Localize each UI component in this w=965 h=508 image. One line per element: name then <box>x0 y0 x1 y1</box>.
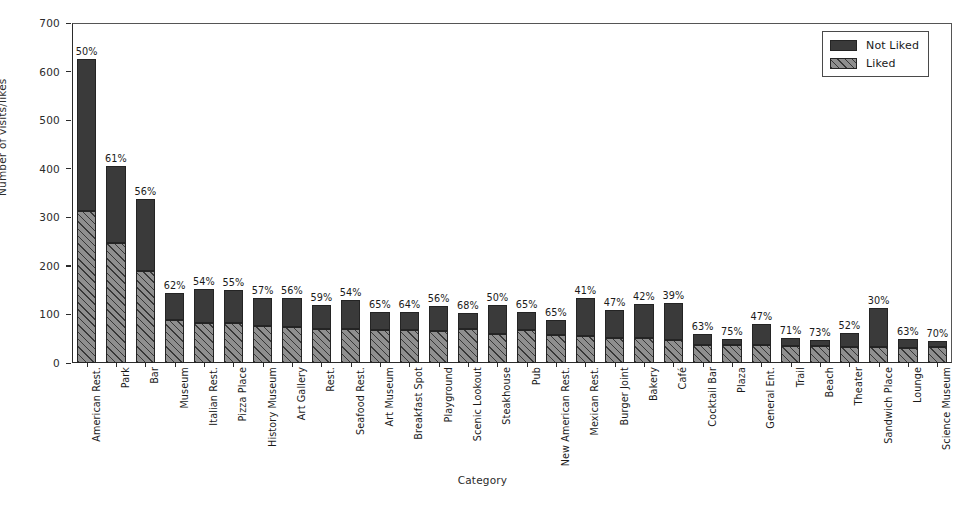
bar-group[interactable]: 57% <box>253 298 272 363</box>
bar-segment-not-liked[interactable] <box>840 333 859 348</box>
bar-segment-not-liked[interactable] <box>605 310 624 338</box>
bar-group[interactable]: 42% <box>634 304 653 363</box>
bar-group[interactable]: 52% <box>840 333 859 363</box>
bar-segment-not-liked[interactable] <box>576 298 595 336</box>
bar-segment-liked[interactable] <box>341 329 360 363</box>
bar-segment-not-liked[interactable] <box>722 339 741 345</box>
bar-segment-not-liked[interactable] <box>488 305 507 334</box>
bar-segment-liked[interactable] <box>693 345 712 363</box>
bar-segment-liked[interactable] <box>546 335 565 363</box>
bar-group[interactable]: 63% <box>898 339 917 363</box>
bar-group[interactable]: 50% <box>77 59 96 363</box>
bar-group[interactable]: 47% <box>605 310 624 363</box>
bar-segment-liked[interactable] <box>781 346 800 363</box>
bar-segment-not-liked[interactable] <box>634 304 653 338</box>
bar-segment-liked[interactable] <box>722 345 741 363</box>
bar-group[interactable]: 75% <box>722 339 741 363</box>
bar-segment-not-liked[interactable] <box>312 305 331 329</box>
bar-segment-not-liked[interactable] <box>693 334 712 345</box>
bar-segment-not-liked[interactable] <box>77 59 96 211</box>
bar-segment-not-liked[interactable] <box>136 199 155 271</box>
bar-segment-not-liked[interactable] <box>370 312 389 330</box>
category-label: Café <box>677 367 688 389</box>
bar-segment-not-liked[interactable] <box>781 338 800 345</box>
bar-group[interactable]: 30% <box>869 308 888 363</box>
bar-segment-liked[interactable] <box>194 323 213 363</box>
bar-segment-liked[interactable] <box>488 334 507 363</box>
bar-segment-liked[interactable] <box>752 345 771 363</box>
bar-group[interactable]: 50% <box>488 305 507 363</box>
bar-segment-not-liked[interactable] <box>224 290 243 323</box>
category-label: Bar <box>149 367 160 384</box>
bar-segment-liked[interactable] <box>898 348 917 363</box>
category-label: Sandwich Place <box>883 367 894 444</box>
bar-group[interactable]: 64% <box>400 312 419 363</box>
bar-segment-liked[interactable] <box>77 211 96 363</box>
bar-group[interactable]: 41% <box>576 298 595 363</box>
bar-group[interactable]: 62% <box>165 293 184 363</box>
bar-segment-liked[interactable] <box>312 329 331 363</box>
bar-group[interactable]: 73% <box>810 340 829 363</box>
bar-value-label: 56% <box>281 285 303 296</box>
bar-segment-liked[interactable] <box>869 347 888 364</box>
bar-group[interactable]: 39% <box>664 303 683 363</box>
bar-segment-not-liked[interactable] <box>429 306 448 331</box>
bar-group[interactable]: 54% <box>341 300 360 363</box>
bar-group[interactable]: 55% <box>224 290 243 363</box>
bar-segment-liked[interactable] <box>810 346 829 363</box>
bar-segment-liked[interactable] <box>605 338 624 363</box>
bar-segment-not-liked[interactable] <box>106 166 125 243</box>
bar-segment-not-liked[interactable] <box>898 339 917 348</box>
bar-group[interactable]: 71% <box>781 338 800 363</box>
category-label: Museum <box>179 367 190 409</box>
bar-group[interactable]: 63% <box>693 334 712 363</box>
bar-group[interactable]: 65% <box>370 312 389 363</box>
bar-segment-not-liked[interactable] <box>253 298 272 326</box>
bar-segment-liked[interactable] <box>370 330 389 363</box>
bar-segment-liked[interactable] <box>253 326 272 363</box>
bar-segment-liked[interactable] <box>928 347 947 363</box>
bar-group[interactable]: 56% <box>429 306 448 363</box>
bar-segment-not-liked[interactable] <box>664 303 683 339</box>
bar-segment-not-liked[interactable] <box>810 340 829 346</box>
bar-segment-liked[interactable] <box>106 243 125 363</box>
bar-segment-liked[interactable] <box>576 336 595 363</box>
bar-group[interactable]: 56% <box>282 298 301 363</box>
bar-segment-liked[interactable] <box>429 331 448 363</box>
bar-segment-liked[interactable] <box>840 347 859 363</box>
bar-group[interactable]: 65% <box>546 320 565 363</box>
y-tick-mark <box>66 120 71 121</box>
bar-value-label: 68% <box>457 300 479 311</box>
bar-value-label: 62% <box>164 280 186 291</box>
bar-group[interactable]: 47% <box>752 324 771 363</box>
bar-segment-liked[interactable] <box>517 330 536 363</box>
bar-segment-liked[interactable] <box>282 327 301 363</box>
bar-group[interactable]: 56% <box>136 199 155 363</box>
y-tick-label: 700 <box>39 17 60 29</box>
bar-group[interactable]: 59% <box>312 305 331 363</box>
bar-segment-liked[interactable] <box>224 323 243 363</box>
bar-group[interactable]: 54% <box>194 289 213 363</box>
bar-segment-not-liked[interactable] <box>546 320 565 335</box>
bar-segment-liked[interactable] <box>664 340 683 363</box>
bar-segment-not-liked[interactable] <box>194 289 213 323</box>
bar-segment-not-liked[interactable] <box>282 298 301 327</box>
bar-group[interactable]: 70% <box>928 341 947 363</box>
category-label: Steakhouse <box>501 367 512 425</box>
bar-segment-not-liked[interactable] <box>752 324 771 345</box>
bar-segment-not-liked[interactable] <box>928 341 947 348</box>
bar-segment-not-liked[interactable] <box>341 300 360 329</box>
bar-group[interactable]: 65% <box>517 312 536 363</box>
bar-group[interactable]: 68% <box>458 313 477 363</box>
bar-segment-not-liked[interactable] <box>458 313 477 329</box>
bar-segment-liked[interactable] <box>136 271 155 363</box>
bar-segment-liked[interactable] <box>634 338 653 363</box>
bar-segment-not-liked[interactable] <box>517 312 536 330</box>
bar-segment-not-liked[interactable] <box>869 308 888 346</box>
bar-segment-liked[interactable] <box>458 329 477 363</box>
bar-segment-liked[interactable] <box>165 320 184 363</box>
bar-segment-not-liked[interactable] <box>165 293 184 320</box>
bar-group[interactable]: 61% <box>106 166 125 363</box>
bar-segment-not-liked[interactable] <box>400 312 419 330</box>
bar-segment-liked[interactable] <box>400 330 419 363</box>
